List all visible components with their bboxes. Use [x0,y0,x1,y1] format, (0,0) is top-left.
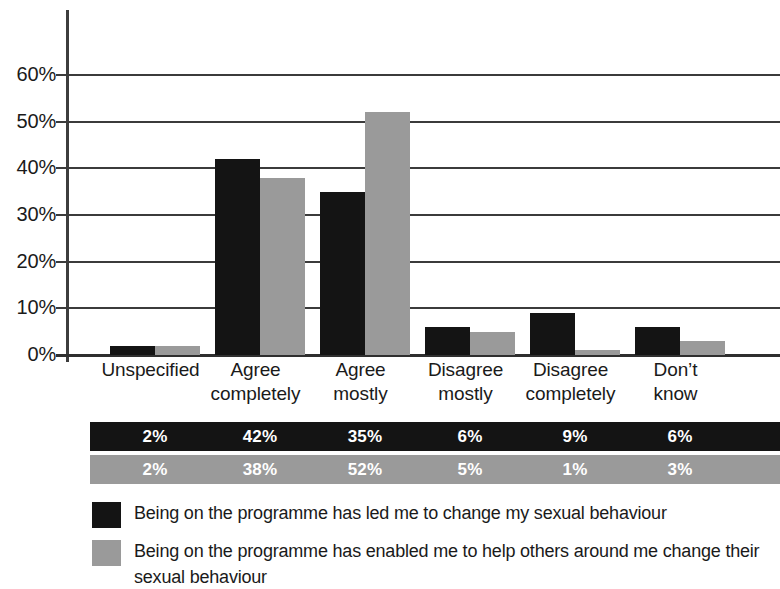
table-cell-value: 9% [535,422,615,451]
table-row: 2%38%52%5%1%3% [90,455,780,484]
table-cell-value: 5% [430,455,510,484]
table-cell-value: 2% [115,422,195,451]
bar [530,313,575,355]
table-cell-value: 6% [430,422,510,451]
x-axis-category-label-line: Don’t [613,358,738,382]
bar [365,112,410,355]
legend: Being on the programme has led me to cha… [92,500,780,589]
bar [425,327,470,355]
legend-item-label: Being on the programme has led me to cha… [134,500,780,526]
bar [155,346,200,355]
x-axis-category-labels: UnspecifiedAgreecompletelyAgreemostlyDis… [0,358,780,416]
bars-layer [0,0,780,355]
bar [635,327,680,355]
legend-swatch-icon [92,540,121,566]
table-cell-value: 38% [220,455,300,484]
table-cell-value: 6% [640,422,720,451]
bar [575,350,620,355]
bar [470,332,515,355]
x-axis-category-label-line: know [613,382,738,406]
table-cell-value: 3% [640,455,720,484]
legend-swatch-icon [92,502,121,528]
data-value-table: 2%42%35%6%9%6% 2%38%52%5%1%3% [90,422,780,486]
plot-area: 60%50%40%30%20%10%0% [0,0,780,360]
bar [320,192,365,355]
bar [260,178,305,355]
bar [215,159,260,355]
table-cell-value: 42% [220,422,300,451]
table-cell-value: 1% [535,455,615,484]
table-cell-value: 2% [115,455,195,484]
bar-chart-figure: 60%50%40%30%20%10%0% UnspecifiedAgreecom… [0,0,780,589]
table-row: 2%42%35%6%9%6% [90,422,780,451]
legend-item-label: Being on the programme has enabled me to… [134,538,780,589]
bar [110,346,155,355]
x-axis-category-label: Don’tknow [613,358,738,406]
table-cell-value: 52% [325,455,405,484]
table-cell-value: 35% [325,422,405,451]
bar [680,341,725,355]
